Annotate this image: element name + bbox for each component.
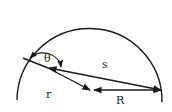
geometry-diagram: θ s r R: [0, 0, 172, 112]
s-line: [49, 68, 161, 90]
r-label: r: [46, 88, 52, 101]
theta-label: θ: [44, 52, 51, 65]
circle-arc: [17, 28, 162, 102]
s-label: s: [102, 58, 108, 71]
R-label: R: [116, 94, 125, 107]
